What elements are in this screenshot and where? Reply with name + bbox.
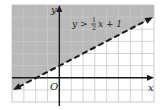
label-rhs: x + 1	[98, 19, 122, 29]
origin-label: O	[50, 81, 58, 92]
label-fraction-num: 1	[92, 16, 96, 24]
inequality-graph: y x O y > 1 2 x + 1	[0, 0, 162, 110]
x-axis-label: x	[148, 82, 154, 93]
label-lhs: y >	[71, 19, 88, 29]
label-fraction-den: 2	[92, 24, 96, 32]
y-axis-label: y	[50, 4, 57, 15]
